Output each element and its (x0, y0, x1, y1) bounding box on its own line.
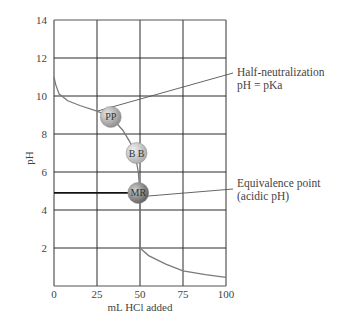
titration-chart: 02550751002468101214 PPB BMR pH mL HCl a… (0, 0, 338, 325)
x-tick-label: 25 (92, 288, 104, 300)
y-tick-label: 2 (42, 242, 48, 254)
y-axis-label: pH (23, 151, 35, 165)
y-tick-label: 14 (36, 14, 48, 26)
svg-text:B B: B B (129, 148, 145, 159)
x-tick-label: 100 (218, 288, 235, 300)
y-tick-label: 8 (42, 128, 48, 140)
x-tick-label: 75 (178, 288, 190, 300)
svg-text:PP: PP (105, 111, 117, 122)
x-axis-label: mL HCl added (108, 301, 173, 313)
half-neutralization-eq-label: pH = pKa (237, 79, 282, 92)
indicator-marker-pp: PP (100, 106, 121, 127)
equivalence-note-label: (acidic pH) (237, 190, 289, 203)
y-tick-label: 6 (42, 166, 48, 178)
svg-text:MR: MR (130, 187, 146, 198)
indicator-marker-mr: MR (128, 182, 149, 203)
callout-line (140, 189, 233, 197)
x-tick-label: 50 (135, 288, 147, 300)
equivalence-point-label: Equivalence point (237, 177, 321, 190)
indicator-markers: PPB BMR (100, 106, 149, 203)
half-neutralization-label: Half-neutralization (237, 66, 325, 78)
x-tick-label: 0 (51, 288, 57, 300)
indicator-marker-bb: B B (126, 143, 147, 164)
callout-line (97, 73, 233, 111)
y-tick-label: 4 (42, 204, 48, 216)
y-tick-label: 12 (36, 52, 47, 64)
callout-lines (97, 73, 233, 197)
y-tick-label: 10 (36, 90, 48, 102)
